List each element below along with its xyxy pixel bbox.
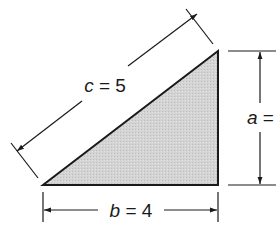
horizontal-eq: = xyxy=(120,200,142,221)
vertical-eq: = xyxy=(258,107,280,128)
hypotenuse-value: 5 xyxy=(115,75,126,96)
vertical-dimension: a = 3 xyxy=(228,51,280,185)
horizontal-label: b = 4 xyxy=(110,200,153,221)
hypotenuse-eq: = xyxy=(94,75,116,96)
horizontal-dimension: b = 4 xyxy=(43,192,218,222)
horizontal-var: b xyxy=(110,200,121,221)
hypotenuse-extension-top xyxy=(186,9,213,44)
hypotenuse-arrow-lower xyxy=(17,101,82,151)
right-triangle-diagram: c = 5 a = 3 b = 4 xyxy=(0,0,280,233)
vertical-var: a xyxy=(247,107,258,128)
hypotenuse-label: c = 5 xyxy=(84,75,126,96)
hypotenuse-extension-bottom xyxy=(11,143,38,178)
vertical-value: 3 xyxy=(279,107,280,128)
horizontal-value: 4 xyxy=(142,200,153,221)
vertical-label: a = 3 xyxy=(247,107,280,128)
hypotenuse-var: c xyxy=(84,75,94,96)
hypotenuse-arrow-upper xyxy=(128,14,197,66)
triangle-shape xyxy=(43,51,218,185)
